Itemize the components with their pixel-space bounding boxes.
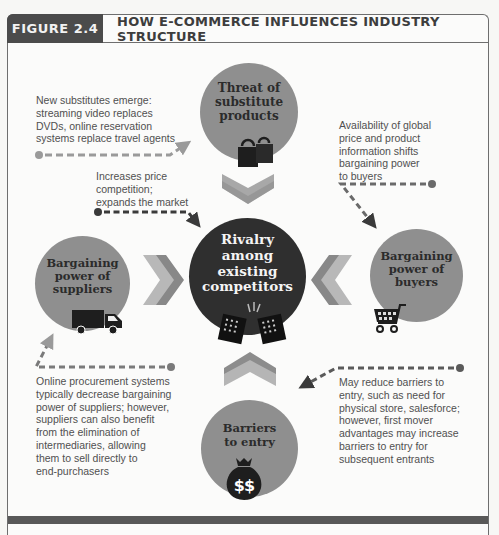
force-label-line: competitors [202, 279, 293, 295]
shopping-bags-icon [236, 138, 276, 168]
note-line: price and product [339, 132, 431, 145]
note-line: intermediaries, allowing [36, 439, 171, 452]
money-bag-label: $$ [226, 476, 262, 495]
force-label-line: buyers [380, 276, 452, 289]
note-line: suppliers can also benefit [36, 413, 171, 426]
shopping-cart-icon [372, 303, 412, 335]
note-line: Increases price [96, 170, 188, 183]
note-line: bargaining power [339, 157, 431, 170]
force-label-line: Bargaining [46, 257, 118, 270]
note-line: them to sell directly to [36, 452, 171, 465]
force-label-line: substitute [215, 96, 283, 110]
note-line: however, first mover [339, 414, 460, 427]
note-line: from the elimination of [36, 426, 171, 439]
force-label-line: suppliers [46, 283, 118, 296]
note-line: expands the market [96, 196, 188, 209]
note-line: DVDs, online reservation [36, 120, 175, 133]
note-line: May reduce barriers to [339, 376, 460, 389]
note-line: end-purchasers [36, 465, 171, 478]
competing-buildings-icon [212, 302, 292, 344]
note-line: advantages may increase [339, 427, 460, 440]
note-line: entry, such as need for [339, 389, 460, 402]
note-substitutes: New substitutes emerge: streaming video … [36, 94, 175, 145]
note-buyers: Availability of global price and product… [339, 119, 431, 183]
note-suppliers: Online procurement systems typically dec… [36, 375, 171, 477]
note-line: physical store, salesforce; [339, 402, 460, 415]
note-line: to buyers [339, 170, 431, 183]
chevron-right-icon [143, 255, 184, 305]
note-rivalry: Increases price competition; expands the… [96, 170, 188, 208]
note-barriers: May reduce barriers to entry, such as ne… [339, 376, 460, 466]
suppliers-connector [36, 340, 175, 371]
chevron-left-icon [311, 255, 352, 305]
figure-bottom-rule [8, 516, 488, 524]
chevron-down-icon [222, 174, 274, 204]
substitutes-connector [35, 145, 185, 159]
force-label-line: Rivalry [202, 232, 293, 248]
note-line: New substitutes emerge: [36, 94, 175, 107]
note-line: systems replace travel agents [36, 132, 175, 145]
force-label-line: among [202, 248, 293, 264]
delivery-truck-icon [72, 308, 128, 336]
note-line: power of suppliers; however, [36, 401, 171, 414]
note-line: barriers to entry for [339, 440, 460, 453]
note-line: subsequent entrants [339, 453, 460, 466]
note-line: streaming video replaces [36, 107, 175, 120]
note-line: Availability of global [339, 119, 431, 132]
buyers-connector [341, 180, 436, 223]
note-line: competition; [96, 183, 188, 196]
note-line: typically decrease bargaining [36, 388, 171, 401]
note-line: information shifts [339, 145, 431, 158]
force-label-line: Bargaining [380, 250, 452, 263]
force-label-line: products [215, 110, 283, 124]
force-label-line: to entry [223, 436, 277, 449]
force-label-line: Threat of [215, 82, 283, 96]
force-label-line: Barriers [223, 422, 277, 435]
chevron-up-icon [224, 352, 276, 386]
rivalry-connector [94, 208, 196, 222]
force-label-line: existing [202, 264, 293, 280]
note-line: Online procurement systems [36, 375, 171, 388]
